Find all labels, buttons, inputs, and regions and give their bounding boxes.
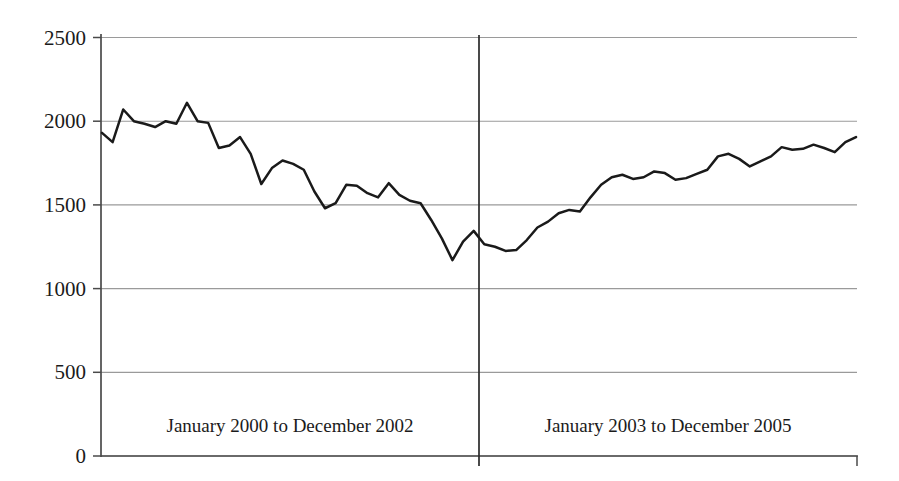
y-tick-label-1000: 1000 xyxy=(44,277,86,301)
y-tick-label-1500: 1500 xyxy=(44,193,86,217)
chart-container: 05001000150020002500 January 2000 to Dec… xyxy=(0,0,899,481)
y-tick-label-2500: 2500 xyxy=(44,26,86,50)
y-axis-tick-labels: 05001000150020002500 xyxy=(44,26,86,469)
y-tick-label-500: 500 xyxy=(55,360,87,384)
segment-1-caption: January 2000 to December 2002 xyxy=(167,415,414,436)
segment-2-caption: January 2003 to December 2005 xyxy=(545,415,792,436)
y-tick-label-0: 0 xyxy=(76,444,87,468)
y-axis-tick-marks xyxy=(93,38,101,457)
y-tick-label-2000: 2000 xyxy=(44,109,86,133)
time-series-line-chart: 05001000150020002500 January 2000 to Dec… xyxy=(0,0,899,481)
